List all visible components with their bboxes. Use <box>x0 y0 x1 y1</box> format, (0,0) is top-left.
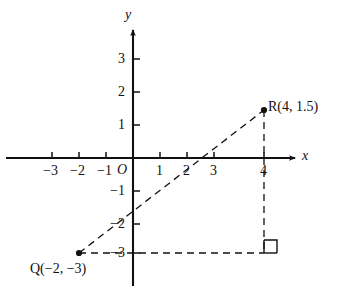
y-tick-label-3: 3 <box>118 52 125 66</box>
y-tick-label-neg1: −1 <box>110 184 125 198</box>
x-tick-label-neg2: −2 <box>70 164 85 178</box>
y-axis-label: y <box>125 8 131 22</box>
origin-label: O <box>117 163 127 177</box>
segment-hypotenuse-QR <box>79 110 264 253</box>
y-tick-label-2: 2 <box>118 85 125 99</box>
x-tick-label-4: 4 <box>260 164 267 178</box>
x-tick-label-1: 1 <box>156 164 163 178</box>
point-r-marker <box>261 107 267 113</box>
y-tick-label-1: 1 <box>118 118 125 132</box>
y-tick-label-neg2: −2 <box>110 217 125 231</box>
x-tick-label-2: 2 <box>183 164 190 178</box>
point-q-marker <box>76 250 82 256</box>
y-tick-label-neg3: −3 <box>110 246 125 260</box>
point-r-label: R(4, 1.5) <box>268 100 318 114</box>
figure-canvas: y x O −3 −2 −1 1 2 3 4 3 2 1 −1 −2 −3 R(… <box>0 0 338 296</box>
point-q-label: Q(−2, −3) <box>30 262 86 276</box>
x-tick-label-3: 3 <box>210 164 217 178</box>
coordinate-plane-svg <box>0 0 338 296</box>
x-tick-label-neg1: −1 <box>97 164 112 178</box>
x-axis-label: x <box>302 149 308 163</box>
right-angle-marker <box>264 240 277 253</box>
x-tick-label-neg3: −3 <box>43 164 58 178</box>
